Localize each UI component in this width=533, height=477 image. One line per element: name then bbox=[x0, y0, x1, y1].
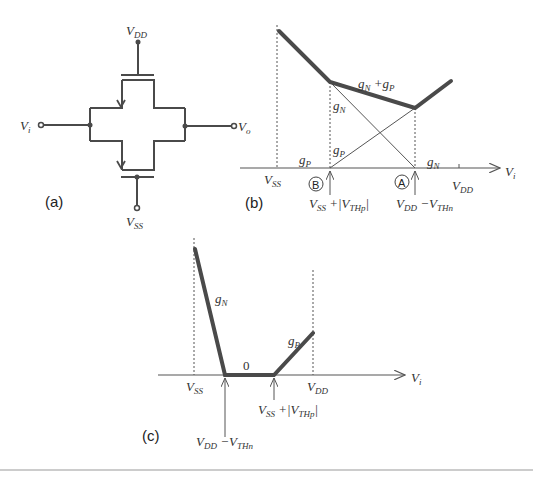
b-marker-b-expr: VSS +|VTHp| bbox=[309, 196, 369, 213]
panel-a-circuit: VDD VSS Vi Vo (a) bbox=[20, 23, 251, 231]
b-gp-line bbox=[330, 108, 415, 168]
caption-c: (c) bbox=[142, 427, 160, 444]
c-gp-label: gP bbox=[288, 333, 301, 350]
b-total-conductance-curve bbox=[279, 31, 451, 108]
vi-terminal bbox=[39, 123, 44, 128]
caption-a: (a) bbox=[45, 193, 63, 210]
panel-c-chart: gN gP 0 Vi VSS VDD VSS +|VTHp| VDD −VTHn… bbox=[142, 238, 422, 451]
vo-terminal bbox=[232, 124, 237, 129]
c-marker-left-expr: VDD −VTHn bbox=[196, 434, 253, 451]
vss-terminal bbox=[135, 206, 140, 211]
c-gn-label: gN bbox=[215, 291, 229, 308]
nmos-channel-right bbox=[122, 141, 185, 170]
c-axis-label: Vi bbox=[411, 370, 422, 387]
b-sum-label: gN +gP bbox=[358, 76, 395, 93]
b-letter-a: A bbox=[398, 177, 406, 189]
b-gp-lower-label: gP bbox=[299, 152, 312, 169]
c-vdd-tick-label: VDD bbox=[307, 379, 328, 396]
b-gn-upper-label: gN bbox=[333, 98, 347, 115]
c-zero-label: 0 bbox=[243, 358, 250, 373]
pmos-channel-right bbox=[122, 80, 185, 108]
b-vdd-tick-label: VDD bbox=[452, 178, 473, 195]
b-axis-label: Vi bbox=[505, 164, 516, 181]
c-conductance-curve bbox=[195, 249, 313, 375]
c-vss-tick-label: VSS bbox=[186, 379, 203, 396]
b-marker-a-expr: VDD −VTHn bbox=[396, 196, 453, 213]
caption-b: (b) bbox=[245, 194, 263, 211]
panel-b-chart: gN +gP gN gP gP gN Vi VSS VDD B A VSS +|… bbox=[240, 25, 516, 213]
vi-junction bbox=[88, 123, 93, 128]
vss-label: VSS bbox=[126, 214, 143, 231]
nmos-channel-left bbox=[90, 141, 122, 170]
vo-label: Vo bbox=[238, 119, 251, 136]
b-gn-lower-label: gN bbox=[427, 154, 441, 171]
vi-label: Vi bbox=[20, 118, 31, 135]
b-letter-b: B bbox=[312, 179, 319, 191]
b-gp-upper-label: gP bbox=[333, 142, 346, 159]
c-marker-right-expr: VSS +|VTHp| bbox=[258, 402, 318, 419]
pmos-channel-left bbox=[90, 80, 122, 108]
b-vss-tick-label: VSS bbox=[264, 172, 281, 189]
vdd-label: VDD bbox=[126, 23, 147, 40]
